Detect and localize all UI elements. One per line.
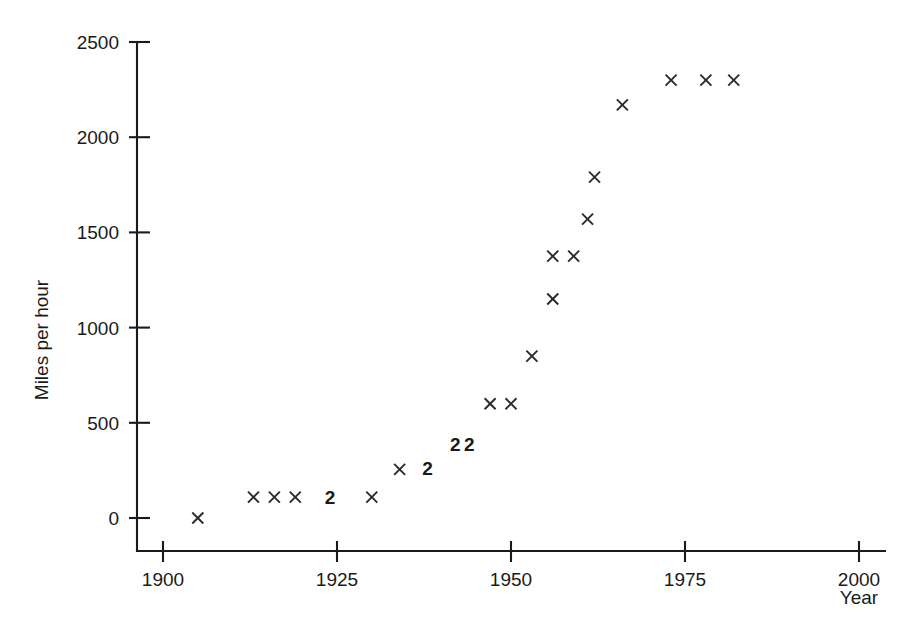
x-tick-label-1900: 1900 <box>142 569 184 590</box>
data-point-count-label: 2 <box>422 458 433 479</box>
data-point-marker <box>547 251 558 262</box>
x-axis-title: Year <box>840 587 879 608</box>
data-point-marker <box>666 75 677 86</box>
data-point-marker <box>582 214 593 225</box>
y-tick-label-0: 0 <box>108 508 119 529</box>
data-point-marker <box>192 513 203 524</box>
data-point-marker <box>700 75 711 86</box>
data-point-marker <box>269 492 280 503</box>
data-point-marker <box>617 99 628 110</box>
x-tick-label-1975: 1975 <box>664 569 706 590</box>
y-axis-title: Miles per hour <box>31 279 52 400</box>
chart-canvas: 05001000150020002500 1900192519501975200… <box>0 0 899 640</box>
data-point-marker <box>290 492 301 503</box>
scatter-plot-figure: 05001000150020002500 1900192519501975200… <box>0 0 899 640</box>
data-point-marker <box>589 172 600 183</box>
y-tick-label-500: 500 <box>87 413 119 434</box>
y-tick-label-1500: 1500 <box>77 222 119 243</box>
y-axis-ticks: 05001000150020002500 <box>77 32 150 529</box>
data-point-count-label: 2 <box>325 487 336 508</box>
data-point-count-label: 2 <box>464 434 475 455</box>
data-point-marker <box>568 251 579 262</box>
data-point-marker <box>728 75 739 86</box>
x-axis-ticks: 19001925195019752000 <box>142 541 880 590</box>
y-tick-label-2500: 2500 <box>77 32 119 53</box>
x-tick-label-1950: 1950 <box>490 569 532 590</box>
data-point-marker <box>248 492 259 503</box>
data-point-count-label: 2 <box>450 434 461 455</box>
x-tick-label-1925: 1925 <box>316 569 358 590</box>
data-point-marker <box>366 492 377 503</box>
y-tick-label-2000: 2000 <box>77 127 119 148</box>
data-point-marker <box>485 398 496 409</box>
y-tick-label-1000: 1000 <box>77 318 119 339</box>
data-point-marker <box>506 398 517 409</box>
data-markers: 2222 <box>192 75 739 524</box>
data-point-marker <box>394 464 405 475</box>
data-point-marker <box>547 294 558 305</box>
data-point-marker <box>526 351 537 362</box>
